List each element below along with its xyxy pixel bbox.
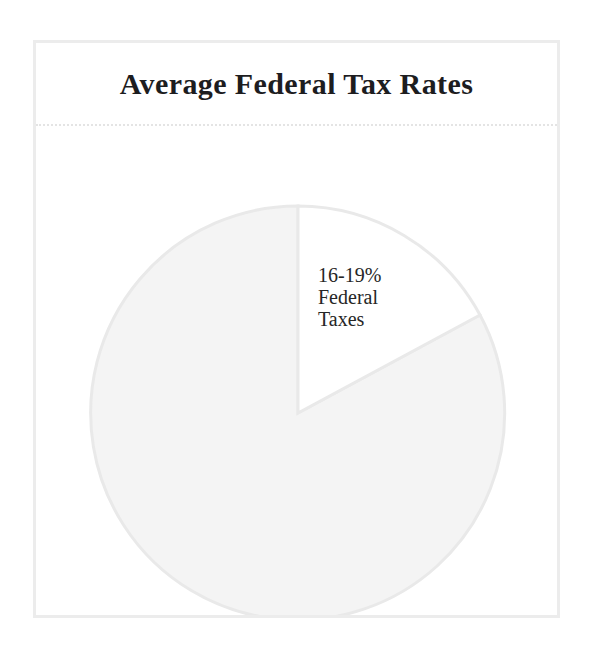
chart-title-band: Average Federal Tax Rates	[36, 43, 557, 124]
pie-chart	[36, 126, 557, 615]
page-title: Average Federal Tax Rates	[120, 69, 474, 99]
plot-area: 16-19% Federal Taxes	[36, 126, 557, 615]
chart-frame: Average Federal Tax Rates 16-19% Federal…	[33, 40, 560, 618]
page-root: Average Federal Tax Rates 16-19% Federal…	[0, 0, 595, 646]
